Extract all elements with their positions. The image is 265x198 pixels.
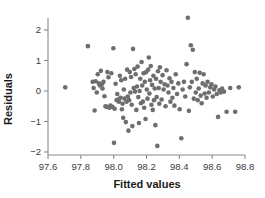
data-point bbox=[135, 84, 140, 89]
x-axis-ticks: 97.697.898.098.298.498.698.8 bbox=[39, 155, 255, 172]
data-point bbox=[127, 70, 132, 75]
data-point bbox=[228, 86, 233, 91]
data-point bbox=[122, 87, 127, 92]
data-point bbox=[109, 71, 114, 76]
data-point bbox=[165, 83, 170, 88]
data-point bbox=[106, 75, 111, 80]
data-point bbox=[135, 64, 140, 69]
data-point bbox=[147, 91, 152, 96]
data-point bbox=[160, 73, 165, 78]
data-point bbox=[120, 102, 125, 107]
data-point bbox=[99, 69, 104, 74]
data-point bbox=[233, 109, 238, 114]
data-point bbox=[176, 81, 181, 86]
data-point bbox=[124, 120, 129, 125]
data-point bbox=[188, 85, 193, 90]
data-point bbox=[115, 92, 120, 97]
data-point bbox=[173, 72, 178, 77]
data-point bbox=[236, 85, 241, 90]
data-point bbox=[142, 105, 147, 110]
data-point bbox=[148, 64, 153, 69]
data-point bbox=[120, 107, 125, 112]
data-point bbox=[139, 60, 144, 65]
data-point bbox=[190, 80, 195, 85]
data-point bbox=[158, 80, 163, 85]
data-point bbox=[180, 87, 185, 92]
y-tick-label: 2 bbox=[36, 24, 41, 35]
data-point bbox=[216, 115, 221, 120]
data-point bbox=[111, 46, 116, 51]
x-tick-label: 97.6 bbox=[39, 161, 58, 172]
data-point bbox=[183, 94, 188, 99]
data-point bbox=[191, 48, 196, 53]
data-point bbox=[91, 86, 96, 91]
data-point bbox=[177, 107, 182, 112]
x-tick-label: 98.8 bbox=[236, 161, 255, 172]
data-point bbox=[155, 144, 160, 149]
plot-canvas: 97.697.898.098.298.498.698.8 −2−1012 bbox=[0, 0, 265, 198]
data-point bbox=[143, 117, 148, 122]
data-point bbox=[86, 44, 91, 49]
x-tick-label: 98.0 bbox=[104, 161, 123, 172]
data-point bbox=[202, 91, 207, 96]
data-point bbox=[150, 108, 155, 113]
y-tick-label: −2 bbox=[30, 146, 41, 157]
data-point bbox=[175, 92, 180, 97]
data-point bbox=[129, 102, 134, 107]
data-point bbox=[137, 121, 142, 126]
data-point bbox=[105, 70, 110, 75]
data-point bbox=[189, 43, 194, 48]
data-point bbox=[112, 106, 117, 111]
data-point bbox=[148, 78, 153, 83]
data-point bbox=[119, 78, 124, 83]
data-point bbox=[224, 109, 229, 114]
data-point bbox=[143, 80, 148, 85]
data-point bbox=[123, 77, 128, 82]
data-point bbox=[95, 72, 100, 77]
data-point bbox=[133, 72, 138, 77]
data-point bbox=[138, 77, 143, 82]
x-tick-label: 97.8 bbox=[72, 161, 91, 172]
data-point bbox=[196, 86, 201, 91]
data-point bbox=[163, 104, 168, 109]
data-point bbox=[118, 73, 123, 78]
data-point bbox=[195, 98, 200, 103]
data-point bbox=[159, 97, 164, 102]
data-point bbox=[156, 86, 161, 91]
data-point bbox=[102, 94, 107, 99]
data-point bbox=[213, 84, 218, 89]
data-point bbox=[128, 90, 133, 95]
data-point bbox=[153, 123, 158, 128]
data-point bbox=[209, 82, 214, 87]
data-point bbox=[187, 109, 192, 114]
data-point bbox=[137, 89, 142, 94]
data-point bbox=[158, 65, 163, 70]
data-point bbox=[186, 15, 191, 20]
y-tick-label: −1 bbox=[30, 116, 41, 127]
data-point bbox=[141, 99, 146, 104]
data-point bbox=[129, 75, 134, 80]
data-point bbox=[197, 70, 202, 75]
data-point bbox=[101, 80, 106, 85]
data-point bbox=[152, 86, 157, 91]
data-point bbox=[201, 72, 206, 77]
data-point bbox=[182, 80, 187, 85]
data-point bbox=[136, 95, 141, 100]
data-point bbox=[145, 96, 150, 101]
y-tick-label: 0 bbox=[36, 85, 41, 96]
data-point bbox=[100, 86, 105, 91]
data-point bbox=[63, 85, 68, 90]
data-point bbox=[121, 116, 126, 121]
data-point bbox=[145, 87, 150, 92]
data-point bbox=[198, 93, 203, 98]
data-point bbox=[199, 101, 204, 106]
data-point bbox=[113, 81, 118, 86]
data-point bbox=[169, 80, 174, 85]
data-point bbox=[205, 80, 210, 85]
data-point bbox=[94, 90, 99, 95]
data-point bbox=[133, 89, 138, 94]
data-point bbox=[92, 108, 97, 113]
data-point bbox=[126, 128, 131, 133]
data-point bbox=[171, 86, 176, 91]
data-point bbox=[192, 70, 197, 75]
